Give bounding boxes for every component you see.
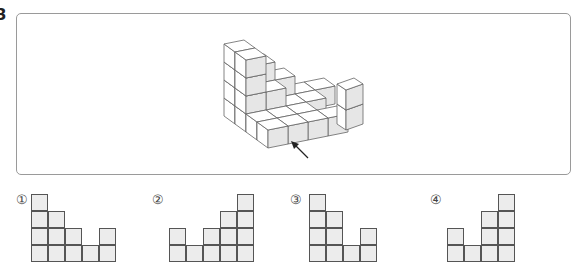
view-cell — [237, 245, 254, 262]
view-cell — [99, 228, 116, 245]
view-cell — [220, 211, 237, 228]
view-cell — [48, 245, 65, 262]
view-cell — [309, 245, 326, 262]
view-cell — [48, 211, 65, 228]
view-cell — [31, 211, 48, 228]
view-cell — [65, 228, 82, 245]
cube-structure-figure — [0, 0, 578, 185]
view-cell — [464, 245, 481, 262]
view-cell — [481, 211, 498, 228]
view-cell — [447, 245, 464, 262]
view-cell — [203, 245, 220, 262]
view-cell — [220, 228, 237, 245]
view-cell — [309, 211, 326, 228]
view-cell — [360, 228, 377, 245]
view-cell — [498, 245, 515, 262]
view-cell — [326, 211, 343, 228]
option-2-label: ② — [152, 192, 164, 207]
view-cell — [237, 228, 254, 245]
view-cell — [326, 245, 343, 262]
view-cell — [99, 245, 116, 262]
view-cell — [31, 245, 48, 262]
view-cell — [481, 245, 498, 262]
option-1-label: ① — [16, 192, 28, 207]
view-cell — [343, 245, 360, 262]
view-cell — [186, 245, 203, 262]
view-cell — [326, 228, 343, 245]
view-cell — [203, 228, 220, 245]
view-cell — [220, 245, 237, 262]
view-cell — [447, 228, 464, 245]
view-cell — [31, 194, 48, 211]
view-cell — [481, 228, 498, 245]
view-cell — [360, 245, 377, 262]
view-cell — [309, 194, 326, 211]
view-cell — [169, 245, 186, 262]
option-4-label: ④ — [430, 192, 442, 207]
view-cell — [48, 228, 65, 245]
view-cell — [237, 211, 254, 228]
view-cell — [169, 228, 186, 245]
view-cell — [65, 245, 82, 262]
option-3-label: ③ — [290, 192, 302, 207]
view-cell — [309, 228, 326, 245]
view-cell — [82, 245, 99, 262]
view-cell — [498, 211, 515, 228]
view-cell — [498, 228, 515, 245]
view-cell — [498, 194, 515, 211]
view-cell — [237, 194, 254, 211]
view-cell — [31, 228, 48, 245]
